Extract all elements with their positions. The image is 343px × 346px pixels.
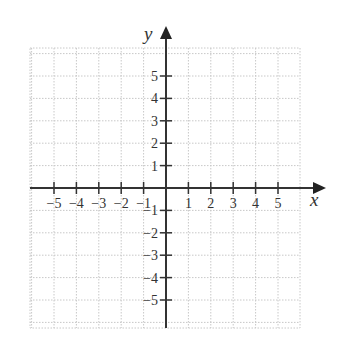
y-tick-label: −2	[143, 226, 158, 241]
x-tick-label: 2	[207, 196, 214, 211]
x-tick-label: −5	[47, 196, 62, 211]
x-tick-label: −4	[69, 196, 84, 211]
y-tick-label: 3	[151, 114, 158, 129]
x-tick-label: 5	[275, 196, 282, 211]
y-tick-label: −3	[143, 248, 158, 263]
x-tick-label: 3	[230, 196, 237, 211]
axes: x y	[30, 23, 326, 328]
y-tick-label: 1	[151, 159, 158, 174]
y-tick-label: 2	[151, 136, 158, 151]
x-tick-label: −3	[91, 196, 106, 211]
x-tick-label: −2	[114, 196, 129, 211]
y-tick-label: −5	[143, 293, 158, 308]
y-tick-label: 4	[151, 91, 158, 106]
y-axis-arrow-icon	[160, 26, 172, 39]
y-tick-label: 5	[151, 69, 158, 84]
y-tick-label: −4	[143, 271, 158, 286]
y-tick-label: −1	[143, 203, 158, 218]
x-axis-label: x	[309, 189, 319, 210]
y-axis-label: y	[142, 23, 153, 44]
x-tick-label: 4	[252, 196, 259, 211]
x-tick-label: 1	[185, 196, 192, 211]
coordinate-plane: x y −5−4−3−2−11234554321−1−2−3−4−5	[0, 0, 343, 346]
